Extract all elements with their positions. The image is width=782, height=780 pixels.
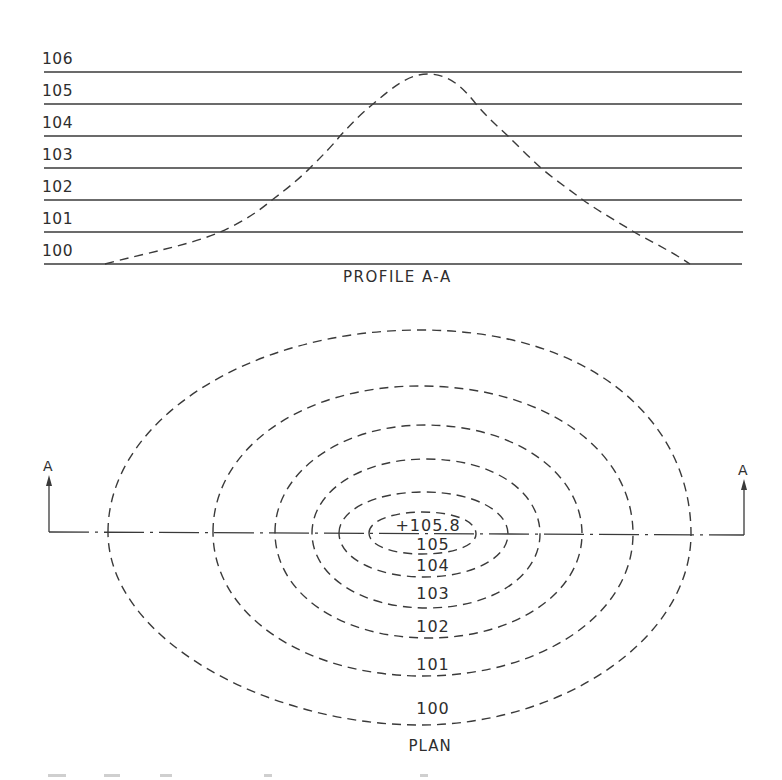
profile-title: PROFILE A-A	[343, 270, 452, 285]
caption-fragment	[420, 774, 428, 777]
contour-label-103: 103	[416, 586, 450, 602]
contour-label-104: 104	[416, 558, 450, 574]
profile-grid	[44, 72, 743, 264]
contour-label-101: 101	[416, 657, 450, 673]
contour-label-105: 105	[416, 537, 450, 553]
caption-fragment	[264, 774, 272, 777]
arrow-up-icon	[46, 475, 52, 486]
caption-fragment	[160, 774, 172, 777]
elevation-label-106: 106	[42, 52, 73, 68]
elevation-label-105: 105	[42, 84, 73, 100]
elevation-label-100: 100	[42, 244, 73, 260]
elevation-label-101: 101	[42, 212, 73, 228]
contour-diagram	[0, 0, 782, 780]
section-marker-right-label: A	[738, 463, 749, 477]
arrow-up-icon	[741, 479, 747, 490]
elevation-label-104: 104	[42, 116, 73, 132]
plan-title: PLAN	[408, 739, 451, 754]
section-marker-left-label: A	[43, 459, 54, 473]
contour-label-100: 100	[416, 701, 450, 717]
elevation-label-102: 102	[42, 180, 73, 196]
elevation-label-103: 103	[42, 148, 73, 164]
contour-label-102: 102	[416, 619, 450, 635]
caption-fragment	[104, 774, 120, 777]
peak-label: +105.8	[395, 518, 460, 534]
profile-curve	[105, 74, 690, 264]
caption-fragment	[48, 774, 66, 777]
